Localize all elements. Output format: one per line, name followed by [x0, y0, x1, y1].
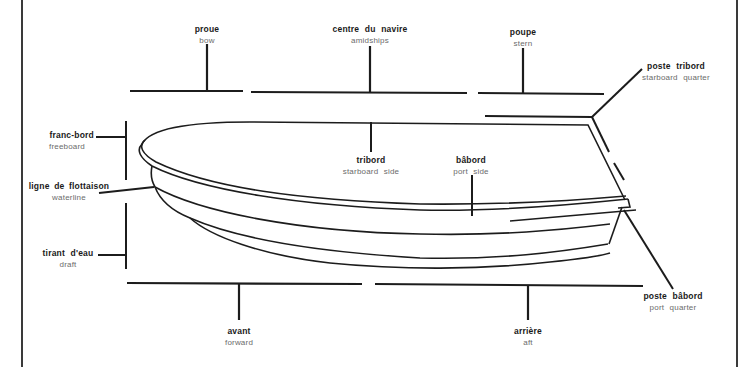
label-starboard-side-en: starboard side	[328, 166, 414, 177]
label-waterline-en: waterline	[26, 192, 112, 203]
label-freeboard-en: freeboard	[40, 141, 94, 152]
label-forward-fr: avant	[214, 326, 264, 337]
label-amidships-en: amidships	[320, 35, 420, 46]
label-draft: tirant d'eau draft	[38, 248, 98, 270]
label-starboard-quarter-fr: poste tribord	[636, 61, 716, 72]
port-quarter-leader	[624, 210, 673, 289]
label-waterline-fr: ligne de flottaison	[26, 181, 112, 192]
label-aft-en: aft	[504, 337, 552, 348]
label-starboard-side-fr: tribord	[328, 155, 414, 166]
label-stern-en: stern	[500, 38, 546, 49]
label-amidships-fr: centre du navire	[320, 24, 420, 35]
label-freeboard: franc-bord freeboard	[40, 130, 94, 152]
label-stern-fr: poupe	[500, 27, 546, 38]
hull	[139, 122, 636, 268]
label-waterline: ligne de flottaison waterline	[26, 181, 112, 203]
label-port-quarter-en: port quarter	[640, 302, 706, 313]
label-bow-en: bow	[186, 35, 228, 46]
label-draft-fr: tirant d'eau	[38, 248, 98, 259]
label-bow: proue bow	[186, 24, 228, 46]
label-starboard-quarter-en: starboard quarter	[636, 72, 716, 83]
label-freeboard-fr: franc-bord	[40, 130, 94, 141]
top-brackets	[130, 44, 604, 94]
draft-bracket	[98, 203, 126, 269]
label-stern: poupe stern	[500, 27, 546, 49]
label-aft: arrière aft	[504, 326, 552, 348]
label-port-side-en: port side	[446, 166, 496, 177]
boat-diagram: proue bow centre du navire amidships pou…	[0, 0, 739, 367]
freeboard-bracket	[96, 121, 126, 180]
label-amidships: centre du navire amidships	[320, 24, 420, 46]
label-port-side: bâbord port side	[446, 155, 496, 177]
label-starboard-quarter: poste tribord starboard quarter	[636, 61, 716, 83]
label-forward: avant forward	[214, 326, 264, 348]
label-port-side-fr: bâbord	[446, 155, 496, 166]
label-port-quarter-fr: poste bâbord	[640, 291, 706, 302]
label-draft-en: draft	[38, 259, 98, 270]
label-forward-en: forward	[214, 337, 264, 348]
label-starboard-side: tribord starboard side	[328, 155, 414, 177]
label-aft-fr: arrière	[504, 326, 552, 337]
label-port-quarter: poste bâbord port quarter	[640, 291, 706, 313]
label-bow-fr: proue	[186, 24, 228, 35]
bottom-brackets	[127, 283, 643, 320]
